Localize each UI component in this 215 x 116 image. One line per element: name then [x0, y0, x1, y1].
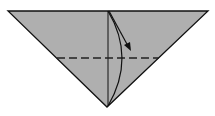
origami-diagram — [0, 0, 215, 116]
diagram-svg — [0, 0, 215, 116]
